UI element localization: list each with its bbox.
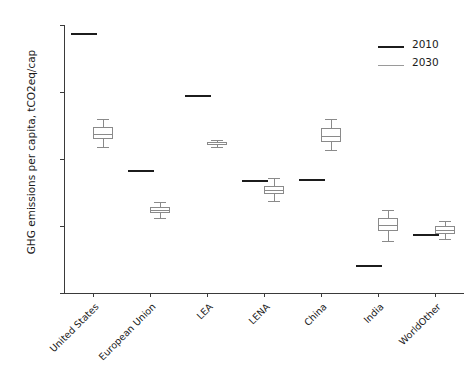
box-whisker xyxy=(388,231,389,240)
marker-2010-lena xyxy=(242,180,268,182)
x-tick xyxy=(435,293,436,297)
box-whisker-cap xyxy=(211,147,223,148)
box-whisker xyxy=(331,142,332,150)
box-median xyxy=(93,134,113,135)
x-tick xyxy=(378,293,379,297)
x-tick xyxy=(321,293,322,297)
box-whisker-cap xyxy=(439,221,451,222)
x-tick-label-worldother: WorldOther xyxy=(351,301,444,374)
box-median xyxy=(321,136,341,137)
marker-2010-lea xyxy=(185,95,211,97)
x-tick xyxy=(150,293,151,297)
box-whisker-cap xyxy=(268,178,280,179)
box-whisker xyxy=(388,210,389,218)
box-whisker-cap xyxy=(382,241,394,242)
x-tick xyxy=(93,293,94,297)
box-median xyxy=(378,225,398,226)
box-whisker-cap xyxy=(154,202,166,203)
y-tick xyxy=(60,25,64,26)
plot-area: 05101520 United StatesEuropean UnionLEAL… xyxy=(64,25,464,293)
box-whisker xyxy=(331,119,332,128)
y-axis-line xyxy=(64,25,65,293)
marker-2010-india xyxy=(356,265,382,267)
box-whisker-cap xyxy=(154,218,166,219)
y-axis-title: GHG emissions per capita, tCO2eq/cap xyxy=(25,27,37,277)
marker-2010-worldother xyxy=(413,234,439,236)
y-tick xyxy=(60,92,64,93)
chart-figure: GHG emissions per capita, tCO2eq/cap 051… xyxy=(0,0,476,374)
box-whisker xyxy=(274,178,275,186)
marker-2010-european-union xyxy=(128,170,154,172)
box-whisker-cap xyxy=(268,201,280,202)
legend-label-2030: 2030 xyxy=(412,56,439,68)
marker-2010-china xyxy=(299,179,325,181)
box-iqr xyxy=(321,128,341,141)
y-tick xyxy=(60,293,64,294)
box-whisker-cap xyxy=(325,119,337,120)
box-whisker-cap xyxy=(325,150,337,151)
box-median xyxy=(435,230,455,231)
box-whisker-cap xyxy=(211,140,223,141)
legend-label-2010: 2010 xyxy=(412,38,439,50)
y-tick xyxy=(60,159,64,160)
box-whisker-cap xyxy=(97,147,109,148)
box-whisker xyxy=(103,139,104,147)
x-tick xyxy=(264,293,265,297)
box-median xyxy=(264,190,284,191)
box-median xyxy=(150,210,170,211)
legend-swatch-2030 xyxy=(378,65,404,66)
marker-2010-united-states xyxy=(71,33,97,35)
y-tick xyxy=(60,226,64,227)
box-whisker-cap xyxy=(382,210,394,211)
box-whisker xyxy=(274,194,275,201)
x-tick xyxy=(207,293,208,297)
box-whisker-cap xyxy=(439,239,451,240)
box-whisker xyxy=(103,119,104,127)
legend-swatch-2010 xyxy=(378,46,404,48)
box-whisker-cap xyxy=(97,119,109,120)
